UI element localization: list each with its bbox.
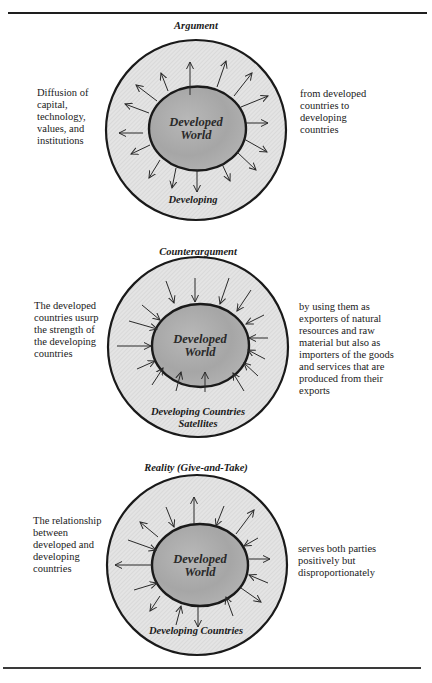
- left-text-reality: The relationship between developed and d…: [33, 515, 102, 575]
- left-text-argument: Diffusion of capital, technology, values…: [37, 87, 88, 147]
- ring-label-developing: Developing: [169, 194, 218, 206]
- ring-label-developing-countries: Developing Countries: [149, 625, 243, 637]
- inner-label-developed-world: Developed World: [173, 553, 226, 579]
- right-text-argument: from developed countries to developing c…: [300, 88, 366, 136]
- panel-title-argument: Argument: [174, 20, 218, 31]
- inner-label-developed-world: Developed World: [169, 116, 222, 142]
- inner-label-developed-world: Developed World: [173, 333, 226, 359]
- right-text-reality: serves both parties positively but dispr…: [298, 543, 376, 579]
- panel-title-reality: Reality (Give-and-Take): [144, 462, 248, 473]
- panel-title-counterargument: Counterargument: [159, 246, 237, 257]
- bottom-rule: [3, 667, 421, 669]
- ring-label-developing-countries-satellites: Developing Countries Satellites: [151, 406, 245, 430]
- left-text-counterargument: The developed countries usurp the streng…: [34, 300, 98, 360]
- right-text-counterargument: by using them as exporters of natural re…: [299, 301, 394, 397]
